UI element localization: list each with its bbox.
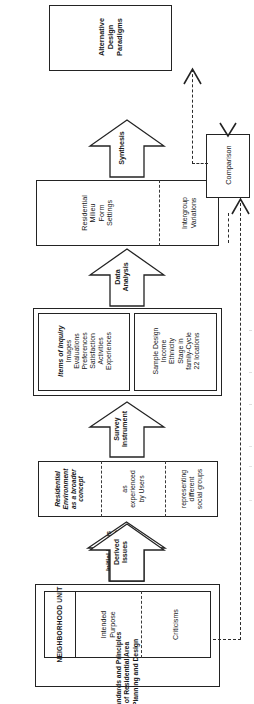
- items-of-inquiry-cell: Items of Inquiry Images Evaluations Pref…: [39, 312, 131, 390]
- survey-instrument-arrow: Survey Instrument: [88, 401, 166, 457]
- diagram-canvas: NEIGHBORHOOD UNIT Intended Purpose Criti…: [0, 0, 254, 704]
- comparison-label: Comparison: [207, 133, 251, 197]
- data-analysis-arrow: Data Analysis: [88, 248, 166, 306]
- standards-and-principles-label: Standards and Principles of Residential …: [44, 658, 211, 687]
- scan-artifact: [249, 330, 252, 331]
- comparison-to-paradigms-arrowhead: [183, 67, 202, 85]
- alternative-design-paradigms-label: Alternative Design Paradigms: [50, 4, 173, 70]
- neighborhood-connector-stub: [213, 639, 241, 640]
- comparison-box: Comparison: [206, 134, 250, 198]
- scan-artifact: [249, 500, 252, 501]
- issues-residential-environment-cell: Residential Environment as a broader con…: [38, 461, 102, 517]
- findings-to-comparison-connector: [228, 213, 229, 243]
- items-of-inquiry-subbox: Items of Inquiry Images Evaluations Pref…: [38, 313, 130, 391]
- neighborhood-to-comparison-connector: [240, 198, 241, 640]
- findings-residential-milieu-cell: Residential Milieu Form Settings: [36, 180, 160, 246]
- issues-as-experienced-cell: as experienced by Users: [102, 461, 166, 517]
- scan-artifact: [249, 466, 252, 467]
- scan-artifact: [249, 446, 252, 447]
- neighborhood-criticisms-cell: Criticisms: [142, 591, 211, 658]
- scan-artifact: [249, 404, 252, 405]
- neighborhood-unit-label-cell: NEIGHBORHOOD UNIT: [44, 591, 76, 658]
- synthesis-arrow: Synthesis: [88, 119, 166, 177]
- issues-social-groups-cell: representing different social groups: [166, 461, 218, 517]
- neighborhood-to-comparison-arrowhead: [231, 197, 250, 215]
- alternative-design-paradigms-box: Alternative Design Paradigms: [49, 5, 172, 71]
- sample-design-cell: Sample Design Income Ethnicity Stage in …: [135, 312, 218, 390]
- rotated-diagram-group: NEIGHBORHOOD UNIT Intended Purpose Criti…: [0, 0, 254, 704]
- comparison-to-paradigms-stub: [192, 163, 208, 164]
- sample-design-subbox: Sample Design Income Ethnicity Stage in …: [134, 313, 217, 391]
- scan-artifact: [249, 372, 252, 373]
- derived-issues-arrow: Derived Issues: [88, 523, 166, 581]
- findings-to-comparison-arrowhead: [219, 122, 237, 138]
